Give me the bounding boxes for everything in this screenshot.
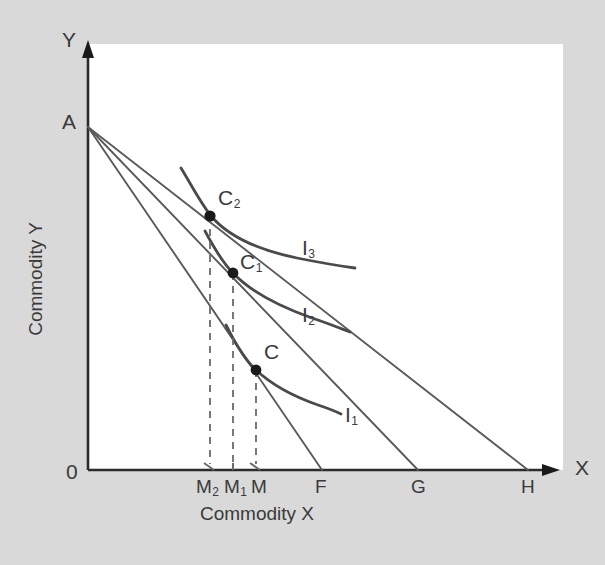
point-C1-letter: C [240, 250, 256, 273]
curve-I2-subscript: 2 [308, 314, 315, 328]
indifference-curve-I1 [226, 325, 341, 414]
curve-label-I2: I2 [302, 303, 315, 328]
x-tick-M1-letter: M [224, 476, 240, 497]
point-C2-label: C2 [218, 186, 240, 211]
point-C2-dot [204, 210, 215, 221]
x-tick-label-M1: M1 [224, 476, 247, 499]
x-axis-title: Commodity X [200, 503, 314, 525]
x-tick-label-M: M [251, 476, 267, 498]
point-C2-letter: C [218, 186, 234, 209]
x-tick-M1-subscript: 1 [240, 485, 247, 499]
curve-label-I3: I3 [302, 236, 315, 261]
curve-label-I1: I1 [345, 403, 358, 428]
point-A-label: A [62, 110, 77, 134]
curve-I3-subscript: 3 [308, 247, 315, 261]
x-tick-M2-subscript: 2 [212, 485, 219, 499]
budget-line-AH [88, 127, 528, 470]
budget-line-AF [88, 127, 322, 470]
origin-label: 0 [66, 460, 78, 484]
x-tick-label-M2: M2 [196, 476, 219, 499]
point-C2-subscript: 2 [234, 197, 241, 211]
x-tick-label-G: G [411, 476, 426, 498]
x-tick-M2-letter: M [196, 476, 212, 497]
x-tick-label-H: H [521, 476, 535, 498]
y-axis-title: Commodity Y [25, 219, 47, 339]
point-C1-label: C1 [240, 250, 262, 275]
economics-diagram: Y X 0 A C2 C1 C I3 I2 I1 M2 M1 M F G H C… [0, 0, 605, 565]
x-axis-arrowhead [542, 464, 560, 476]
point-C1-subscript: 1 [256, 261, 263, 275]
point-C1-dot [228, 268, 239, 279]
curve-I1-subscript: 1 [351, 414, 358, 428]
x-tick-label-F: F [315, 476, 327, 498]
x-axis-tip-label: X [575, 456, 590, 480]
point-C-dot [251, 365, 262, 376]
point-C-label: C [264, 340, 280, 364]
y-axis-arrowhead [82, 40, 94, 58]
budget-line-AG [88, 127, 418, 470]
y-axis-tip-label: Y [62, 28, 77, 52]
diagram-canvas [0, 0, 605, 565]
indifference-curve-I2 [205, 231, 350, 332]
